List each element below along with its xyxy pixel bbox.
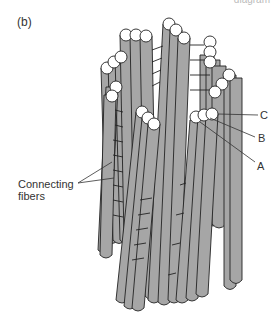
connecting-fibers-label: Connecting fibers — [18, 178, 74, 202]
centriole-diagram — [0, 0, 278, 312]
tubule-c-label: C — [260, 109, 268, 121]
tubule-a-label: A — [257, 160, 264, 172]
connecting-fibers-label-line1: Connecting — [18, 178, 74, 190]
connecting-fibers-label-line2: fibers — [18, 190, 74, 202]
tubule-triplet-right — [224, 75, 242, 290]
tubule-b-label: B — [258, 132, 265, 144]
